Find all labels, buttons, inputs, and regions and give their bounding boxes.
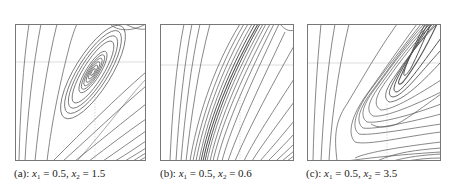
caption-prefix: (a): (14, 167, 32, 179)
contour-plot-c (307, 24, 441, 161)
caption-prefix: (c): (306, 167, 324, 179)
x2-value: 1.5 (91, 167, 105, 179)
equals: = (80, 167, 92, 179)
contour-svg-a (15, 24, 146, 161)
contour-plot-a (15, 24, 146, 161)
equals: = (40, 167, 52, 179)
x2-value: 0.6 (238, 167, 252, 179)
contour-lines (19, 24, 146, 161)
caption-a: (a): x1 = 0.5, x2 = 1.5 (14, 167, 105, 181)
x1-value: 0.5 (199, 167, 213, 179)
contour-plot-b (160, 24, 294, 161)
equals: = (187, 167, 199, 179)
contour-lines (313, 24, 441, 161)
caption-c: (c): x1 = 0.5, x2 = 3.5 (306, 167, 397, 181)
x2-value: 3.5 (383, 167, 397, 179)
contour-svg-c (307, 24, 441, 161)
guide-lines (15, 62, 146, 161)
equals: = (226, 167, 238, 179)
caption-b: (b): x1 = 0.5, x2 = 0.6 (160, 167, 252, 181)
equals: = (372, 167, 384, 179)
equals: = (332, 167, 344, 179)
contour-svg-b (160, 24, 294, 161)
contour-lines (170, 24, 294, 161)
caption-prefix: (b): (160, 167, 179, 179)
x1-value: 0.5 (344, 167, 358, 179)
x1-value: 0.5 (52, 167, 66, 179)
